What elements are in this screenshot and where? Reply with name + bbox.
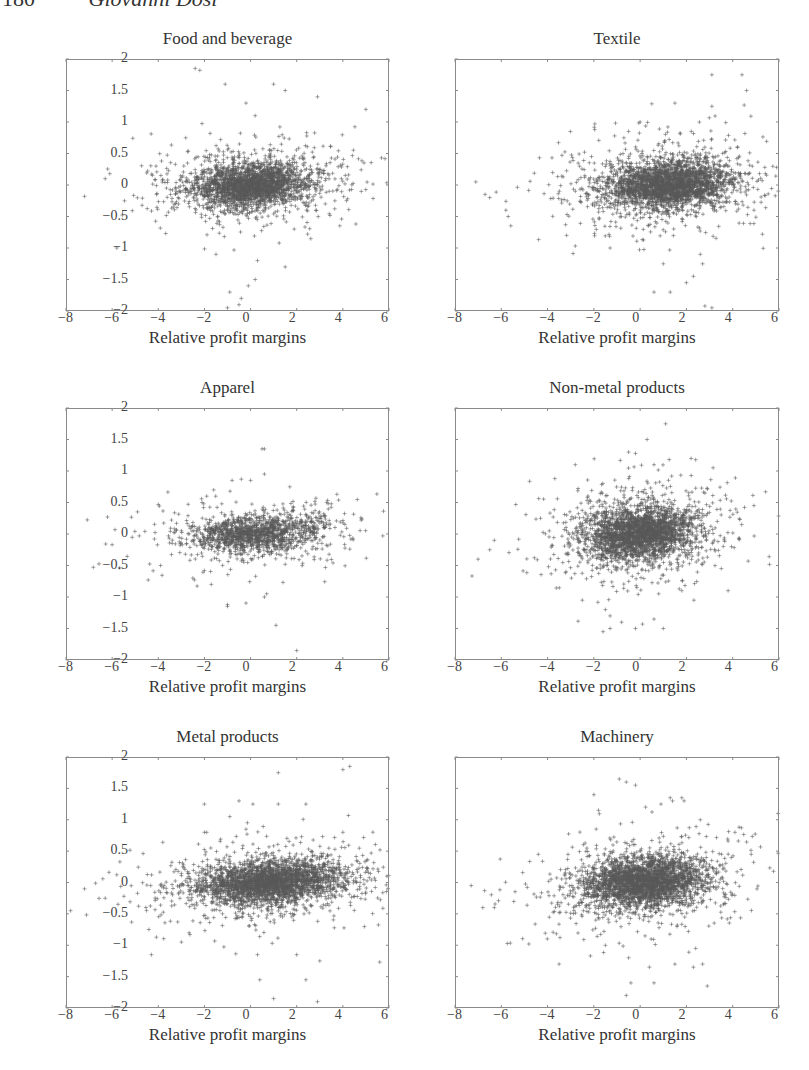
data-points <box>474 73 781 310</box>
x-tick-label: 2 <box>289 310 296 326</box>
panel-title: Non-metal products <box>455 378 779 398</box>
y-tick-label: 2 <box>121 399 128 415</box>
y-tick-label: 1.5 <box>111 431 129 447</box>
x-tick-label: 0 <box>632 1007 639 1023</box>
y-tick-label: −0.5 <box>103 208 128 224</box>
y-tick-label: −2 <box>113 302 128 318</box>
y-tick-label: −1.5 <box>103 271 128 287</box>
x-axis-label: Relative profit margins <box>455 677 779 697</box>
y-tick-label: −0.5 <box>103 905 128 921</box>
x-tick-label: 0 <box>243 310 250 326</box>
x-tick-label: 4 <box>335 659 342 675</box>
panel-title: Machinery <box>455 727 779 747</box>
x-tick-label: −8 <box>447 310 462 326</box>
x-tick-label: 6 <box>381 659 388 675</box>
x-tick-label: −2 <box>196 659 211 675</box>
x-tick-label: −6 <box>493 310 508 326</box>
x-tick-label: 4 <box>335 310 342 326</box>
scatter-plot-area <box>455 408 779 660</box>
x-tick-label: 6 <box>381 310 388 326</box>
data-points <box>470 422 781 634</box>
data-points <box>83 66 389 309</box>
y-tick-label: 0.5 <box>111 494 129 510</box>
scatter-plot-area <box>455 757 779 1008</box>
panel-title: Apparel <box>66 378 389 398</box>
x-tick-label: −2 <box>586 1007 601 1023</box>
data-points <box>85 447 385 653</box>
x-tick-label: −4 <box>540 310 555 326</box>
x-tick-label: −4 <box>540 1007 555 1023</box>
x-tick-label: 2 <box>678 310 685 326</box>
x-tick-label: 0 <box>632 310 639 326</box>
x-tick-label: 6 <box>381 1007 388 1023</box>
y-tick-label: 0 <box>121 525 128 541</box>
panel-title: Food and beverage <box>66 29 389 49</box>
x-tick-label: −6 <box>493 659 508 675</box>
y-tick-label: 0.5 <box>111 145 129 161</box>
x-tick-label: 0 <box>243 659 250 675</box>
x-tick-label: −2 <box>586 659 601 675</box>
x-tick-label: 0 <box>632 659 639 675</box>
y-tick-label: 0.5 <box>111 842 129 858</box>
y-tick-label: −1.5 <box>103 620 128 636</box>
panel-title: Metal products <box>66 727 389 747</box>
running-head-author: Giovanni Dosi <box>89 0 218 11</box>
y-tick-label: 0 <box>121 176 128 192</box>
x-tick-label: 2 <box>289 1007 296 1023</box>
y-tick-label: 0 <box>121 874 128 890</box>
y-tick-label: −1.5 <box>103 968 128 984</box>
y-tick-label: −2 <box>113 651 128 667</box>
x-tick-label: −8 <box>58 310 73 326</box>
y-tick-label: −1 <box>113 239 128 255</box>
x-tick-label: 4 <box>725 310 732 326</box>
x-tick-label: −2 <box>196 1007 211 1023</box>
x-tick-label: −4 <box>540 659 555 675</box>
x-tick-label: 4 <box>335 1007 342 1023</box>
y-tick-label: −2 <box>113 999 128 1015</box>
x-axis-label: Relative profit margins <box>66 328 389 348</box>
x-tick-label: 2 <box>678 659 685 675</box>
scatter-plot-area <box>455 59 779 311</box>
x-tick-label: −4 <box>150 310 165 326</box>
x-tick-label: −6 <box>493 1007 508 1023</box>
x-tick-label: −4 <box>150 1007 165 1023</box>
data-points <box>469 777 780 997</box>
x-tick-label: 0 <box>243 1007 250 1023</box>
x-axis-label: Relative profit margins <box>455 1025 779 1045</box>
x-tick-label: −2 <box>586 310 601 326</box>
y-tick-label: −1 <box>113 588 128 604</box>
x-axis-label: Relative profit margins <box>66 677 389 697</box>
y-tick-label: −1 <box>113 936 128 952</box>
x-tick-label: 6 <box>771 310 778 326</box>
y-tick-label: 1 <box>121 113 128 129</box>
x-tick-label: −8 <box>447 659 462 675</box>
y-tick-label: 2 <box>121 748 128 764</box>
y-tick-label: 1.5 <box>111 779 129 795</box>
y-tick-label: 1.5 <box>111 82 129 98</box>
x-tick-label: 6 <box>771 1007 778 1023</box>
y-tick-label: −0.5 <box>103 557 128 573</box>
x-tick-label: −4 <box>150 659 165 675</box>
y-tick-label: 1 <box>121 811 128 827</box>
page-header: 180 Giovanni Dosi <box>0 0 217 12</box>
x-tick-label: 2 <box>289 659 296 675</box>
panel-title: Textile <box>455 29 779 49</box>
y-tick-label: 1 <box>121 462 128 478</box>
y-tick-label: 2 <box>121 50 128 66</box>
x-tick-label: 4 <box>725 1007 732 1023</box>
page-number: 180 <box>2 0 35 11</box>
x-tick-label: −8 <box>447 1007 462 1023</box>
x-tick-label: −2 <box>196 310 211 326</box>
x-tick-label: −8 <box>58 659 73 675</box>
x-tick-label: 4 <box>725 659 732 675</box>
x-axis-label: Relative profit margins <box>455 328 779 348</box>
x-tick-label: 6 <box>771 659 778 675</box>
x-axis-label: Relative profit margins <box>66 1025 389 1045</box>
x-tick-label: −8 <box>58 1007 73 1023</box>
x-tick-label: 2 <box>678 1007 685 1023</box>
